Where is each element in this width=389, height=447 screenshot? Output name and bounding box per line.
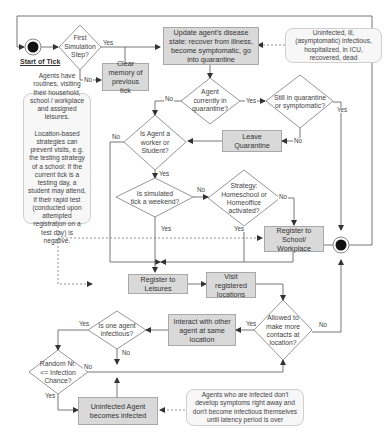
edge-label-no: No xyxy=(83,364,93,370)
edge-label-no: No xyxy=(111,134,121,140)
edge-label-no: No xyxy=(196,187,206,193)
process-update-state: Update agent's disease state: recover fr… xyxy=(163,27,259,65)
note-routines: Agents have routines, visiting their hou… xyxy=(23,93,91,224)
edge-label-no: No xyxy=(164,96,174,102)
edge-label-yes: Yes xyxy=(245,321,257,327)
edge-label-no: No xyxy=(278,194,288,200)
process-register-leisures: Register to Leisures xyxy=(128,274,188,294)
edge-label-yes: Yes xyxy=(160,226,172,232)
process-register-school: Register to School/ Workplace xyxy=(264,226,324,252)
edge-label-no: No xyxy=(121,350,131,356)
decision-first-step: First Simulation Step? xyxy=(60,30,100,64)
edge-label-no: No xyxy=(293,138,303,144)
edge-label-no: No xyxy=(318,322,328,328)
decision-worker-student: Is Agent a worker or Student? xyxy=(128,128,182,158)
decision-in-quarantine: Agent currently in quarantine? xyxy=(184,86,236,116)
decision-weekend: Is simulated tick a weekend? xyxy=(120,188,190,208)
process-interact: Interact with other agent at same locati… xyxy=(168,314,236,346)
process-visit-locations: Visit registered locations xyxy=(206,272,256,298)
decision-still-quarantine: Still in quarantine or symptomatic? xyxy=(268,92,332,112)
edge-label-yes: Yes xyxy=(78,321,90,327)
edge-label-yes: Yes xyxy=(102,40,114,46)
edge-label-yes: Yes xyxy=(245,98,257,104)
edge-label-no: No xyxy=(83,77,93,83)
decision-allowed-contacts: Allowed to make more contacts at locatio… xyxy=(258,314,308,348)
note-disease-states: Uninfected, ill, (asymptomatic) infectio… xyxy=(285,28,382,63)
start-of-tick-label: Start of Tick xyxy=(20,58,60,65)
note-latency: Agents who are infected don't develop sy… xyxy=(186,389,304,426)
process-becomes-infected: Uninfected Agent becomes infected xyxy=(78,397,158,425)
decision-strategy: Strategy: Homeschool or Homeoffice activ… xyxy=(212,182,276,216)
process-leave-quarantine: Leave Quarantine xyxy=(222,130,282,152)
edge-label-yes: Yes xyxy=(158,171,170,177)
decision-random-chance: Random Nr. <= Infection Chance? xyxy=(32,361,84,385)
edge-label-yes: Yes xyxy=(44,393,56,399)
edge-label-yes: Yes xyxy=(233,226,245,232)
decision-one-infectious: Is one agent infectious? xyxy=(90,320,144,340)
process-clear-memory: Clear memory of previous tick xyxy=(102,63,149,91)
edge-label-yes: Yes xyxy=(336,107,348,113)
